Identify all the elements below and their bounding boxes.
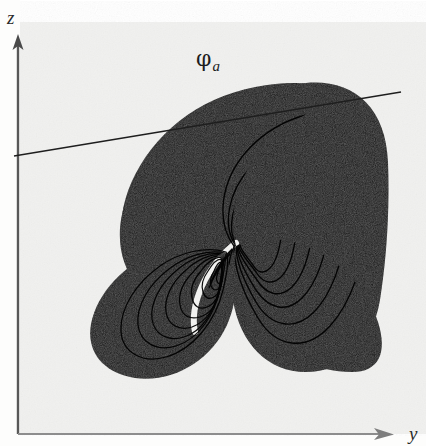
z-axis-label: z (7, 8, 14, 27)
orbital-phi-symbol: φ (196, 46, 211, 71)
orbital-symbol-label: φa (196, 48, 220, 74)
orbital-figure: z y φa (0, 0, 426, 446)
y-axis-label: y (409, 424, 417, 443)
orbital-subscript: a (212, 58, 220, 74)
